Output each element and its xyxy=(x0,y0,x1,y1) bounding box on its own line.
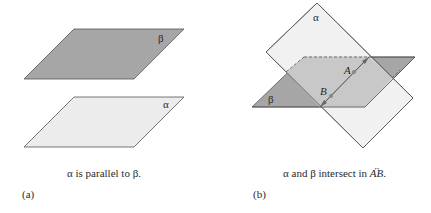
plane-alpha-a xyxy=(24,97,184,147)
label-alpha-b: α xyxy=(313,11,319,23)
point-a-dot xyxy=(352,70,356,74)
point-b-dot xyxy=(329,94,333,98)
caption-a: α is parallel to β. xyxy=(67,167,141,179)
caption-b: α and β intersect in ↔AB. xyxy=(283,167,386,179)
label-beta-a: β xyxy=(158,32,164,44)
line-ab-notation: ↔AB xyxy=(370,167,383,179)
label-beta-b: β xyxy=(268,93,274,105)
label-point-a: A xyxy=(344,64,351,76)
panel-label-a: (a) xyxy=(22,188,34,200)
diagram-canvas xyxy=(0,0,431,213)
panel-label-b: (b) xyxy=(253,188,266,200)
label-alpha-a: α xyxy=(163,98,169,110)
label-point-b: B xyxy=(320,85,327,97)
